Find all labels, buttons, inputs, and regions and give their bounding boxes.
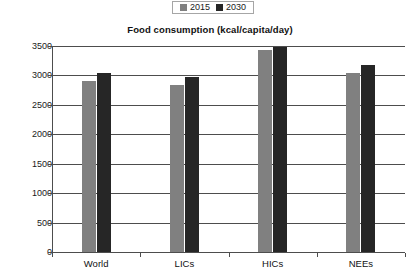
y-axis-tick-label: 3500	[8, 41, 52, 51]
x-axis-tick-mark	[229, 253, 230, 257]
x-axis-label-nees: NEEs	[349, 258, 373, 269]
legend-label-2030: 2030	[226, 3, 246, 12]
y-axis-tick-label: 0	[8, 247, 52, 257]
legend-entry-2015: 2015	[180, 3, 210, 12]
x-axis-tick-mark	[317, 253, 318, 257]
bar-nees-2030	[361, 65, 375, 252]
bar-world-2015	[82, 81, 96, 252]
x-axis-label-world: World	[84, 258, 109, 269]
bar-nees-2015	[346, 73, 360, 253]
x-axis-label-hics: HICs	[262, 258, 283, 269]
bar-hics-2015	[258, 50, 272, 252]
x-axis-tick-mark	[52, 253, 53, 257]
y-axis-tick-label: 2000	[8, 129, 52, 139]
bars-layer	[52, 46, 405, 252]
bar-hics-2030	[273, 47, 287, 252]
chart-legend: 2015 2030	[172, 1, 254, 14]
y-axis-tick-label: 1500	[8, 159, 52, 169]
y-axis-tick-label: 3000	[8, 70, 52, 80]
bar-world-2030	[97, 73, 111, 253]
legend-entry-2030: 2030	[216, 3, 246, 12]
bar-chart: 2015 2030 Food consumption (kcal/capita/…	[0, 0, 420, 277]
legend-swatch-2030	[216, 4, 223, 11]
x-axis-tick-mark	[405, 253, 406, 257]
legend-swatch-2015	[180, 4, 187, 11]
bar-lics-2030	[185, 77, 199, 252]
chart-title: Food consumption (kcal/capita/day)	[0, 24, 420, 35]
legend-label-2015: 2015	[190, 3, 210, 12]
x-axis-tick-mark	[140, 253, 141, 257]
y-axis: 0500100015002000250030003500	[0, 46, 52, 252]
bar-group	[346, 46, 375, 252]
bar-lics-2015	[170, 85, 184, 252]
bar-group	[258, 46, 287, 252]
x-axis-label-lics: LICs	[175, 258, 195, 269]
y-axis-tick-label: 500	[8, 218, 52, 228]
bar-group	[170, 46, 199, 252]
y-axis-tick-label: 1000	[8, 188, 52, 198]
y-axis-tick-label: 2500	[8, 100, 52, 110]
bar-group	[82, 46, 111, 252]
